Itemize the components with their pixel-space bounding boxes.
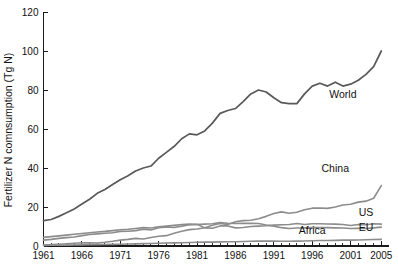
- y-tick-label: 60: [27, 124, 39, 135]
- y-tick-label: 20: [27, 202, 39, 213]
- x-tick-label: 1981: [186, 250, 209, 261]
- y-tick-label: 40: [27, 163, 39, 174]
- x-tick-label: 1986: [224, 250, 247, 261]
- x-tick-label: 1971: [109, 250, 132, 261]
- x-tick-label: 2001: [339, 250, 362, 261]
- fertilizer-consumption-chart: Fertilizer N comnsumption (Tg N) 0204060…: [0, 0, 398, 278]
- y-axis-title: Fertilizer N comnsumption (Tg N): [2, 53, 14, 208]
- x-tick-label: 1976: [148, 250, 171, 261]
- x-tick-label: 1996: [301, 250, 324, 261]
- series-label-world: World: [329, 88, 356, 100]
- x-tick-label: 2005: [370, 250, 393, 261]
- series-label-africa: Africa: [299, 224, 326, 236]
- y-tick-label: 120: [22, 7, 39, 18]
- series-lines: [44, 51, 382, 245]
- series-label-us: US: [359, 206, 374, 218]
- series-line-china: [44, 186, 382, 245]
- series-label-china: China: [322, 162, 350, 174]
- y-tick-label: 80: [27, 85, 39, 96]
- x-tick-label: 1966: [71, 250, 94, 261]
- chart-canvas: Fertilizer N comnsumption (Tg N) 0204060…: [0, 0, 398, 278]
- series-labels: WorldChinaUSEUAfrica: [299, 88, 373, 237]
- x-tick-label: 1991: [263, 250, 286, 261]
- y-axis-title-group: Fertilizer N comnsumption (Tg N): [2, 53, 14, 208]
- series-label-eu: EU: [359, 221, 374, 233]
- series-line-world: [44, 51, 382, 221]
- x-tick-label: 1961: [32, 250, 55, 261]
- y-tick-label: 100: [22, 46, 39, 57]
